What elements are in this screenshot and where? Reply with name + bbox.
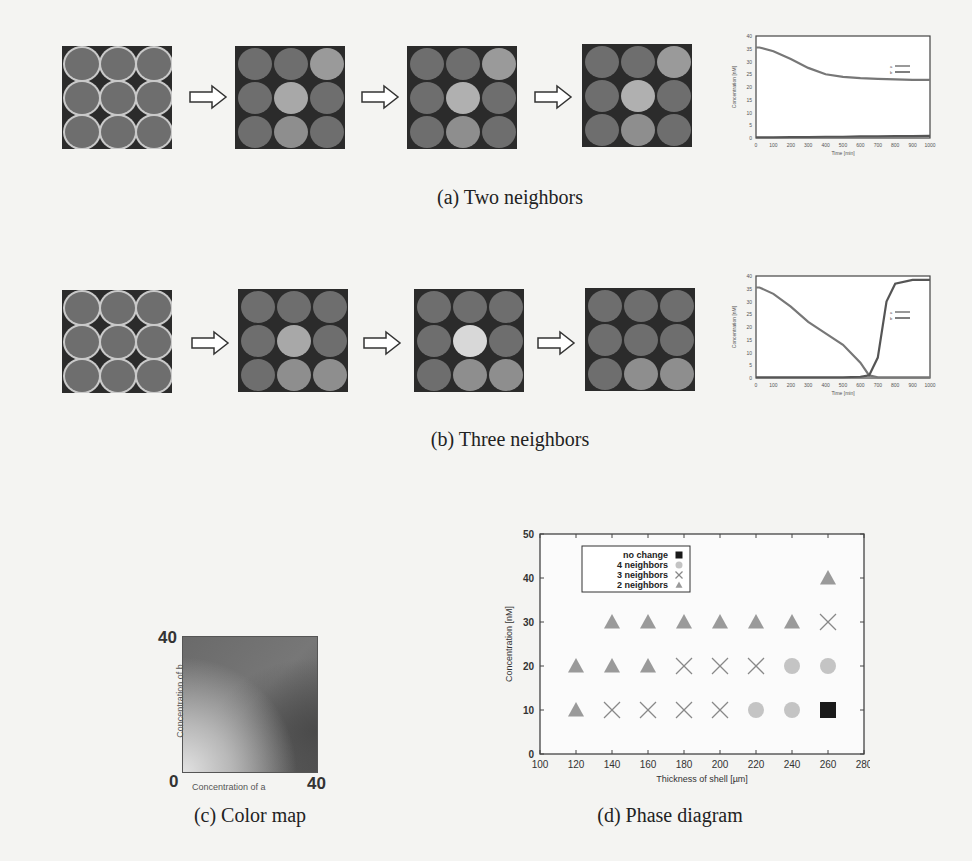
cell bbox=[277, 359, 311, 391]
cell bbox=[660, 324, 694, 356]
cell bbox=[624, 358, 658, 390]
cell bbox=[453, 359, 487, 391]
series-line-b bbox=[756, 136, 930, 137]
cell bbox=[417, 325, 451, 357]
y-tick: 30 bbox=[746, 299, 752, 305]
cell bbox=[588, 290, 622, 322]
y-tick: 50 bbox=[523, 529, 535, 540]
x-tick: 1000 bbox=[924, 142, 935, 148]
cell bbox=[65, 292, 99, 324]
cell bbox=[585, 80, 619, 112]
arrow-right-icon bbox=[536, 330, 576, 356]
cell bbox=[137, 360, 171, 392]
y-tick: 20 bbox=[523, 661, 535, 672]
y-tick: 0 bbox=[749, 375, 752, 381]
arrow-right-icon bbox=[190, 330, 230, 356]
cell bbox=[489, 325, 523, 357]
legend-label: 3 neighbors bbox=[617, 570, 668, 580]
x-tick: 1000 bbox=[924, 382, 935, 388]
caption-c: (c) Color map bbox=[140, 804, 360, 827]
cell bbox=[238, 48, 272, 80]
cell bbox=[410, 82, 444, 114]
cell bbox=[417, 359, 451, 391]
cell bbox=[489, 359, 523, 391]
y-tick: 40 bbox=[746, 33, 752, 39]
cell bbox=[453, 325, 487, 357]
y-tick: 35 bbox=[746, 286, 752, 292]
x-tick: 400 bbox=[821, 382, 830, 388]
cell-grid-b-1 bbox=[238, 289, 348, 392]
cell bbox=[274, 116, 308, 148]
arrow-right-icon bbox=[360, 84, 400, 110]
cell bbox=[446, 116, 480, 148]
cell bbox=[137, 326, 171, 358]
y-tick: 10 bbox=[746, 350, 752, 356]
y-tick: 40 bbox=[523, 573, 535, 584]
x-tick: 100 bbox=[769, 142, 778, 148]
y-axis-label: Concentration [nM] bbox=[731, 65, 737, 108]
arrow-right-icon bbox=[188, 84, 228, 110]
plot-frame bbox=[756, 276, 930, 378]
cell bbox=[446, 48, 480, 80]
cell bbox=[101, 48, 135, 80]
cell bbox=[101, 82, 135, 114]
legend: no change4 neighbors3 neighbors2 neighbo… bbox=[582, 546, 690, 592]
x-tick: 180 bbox=[676, 759, 693, 770]
cell-grid-a-0 bbox=[62, 46, 172, 149]
marker-square bbox=[676, 552, 683, 559]
x-tick: 0 bbox=[755, 142, 758, 148]
color-map-x-label: Concentration of a bbox=[192, 782, 266, 792]
cell bbox=[277, 291, 311, 323]
y-axis-label: Concentration [nM] bbox=[731, 305, 737, 348]
color-map-y-label: Concentration of b bbox=[175, 631, 185, 771]
y-tick: 25 bbox=[746, 71, 752, 77]
cell bbox=[65, 48, 99, 80]
cell bbox=[241, 325, 275, 357]
cell bbox=[238, 116, 272, 148]
y-tick: 10 bbox=[523, 705, 535, 716]
cell bbox=[621, 46, 655, 78]
figure: 0100200300400500600700800900100005101520… bbox=[0, 0, 972, 861]
cell bbox=[101, 326, 135, 358]
x-tick: 800 bbox=[891, 382, 900, 388]
x-tick: 160 bbox=[640, 759, 657, 770]
cell bbox=[313, 291, 347, 323]
cell bbox=[453, 291, 487, 323]
cell bbox=[277, 325, 311, 357]
cell bbox=[417, 291, 451, 323]
cell bbox=[313, 325, 347, 357]
y-tick: 10 bbox=[746, 110, 752, 116]
cell bbox=[489, 291, 523, 323]
y-tick: 25 bbox=[746, 311, 752, 317]
marker-circle bbox=[676, 562, 683, 569]
cell bbox=[588, 358, 622, 390]
cell bbox=[137, 48, 171, 80]
marker-square bbox=[820, 702, 836, 718]
cell bbox=[585, 114, 619, 146]
cell bbox=[65, 360, 99, 392]
arrow-right-icon bbox=[362, 330, 402, 356]
x-tick: 500 bbox=[839, 142, 848, 148]
cell bbox=[660, 290, 694, 322]
cell-grid-b-2 bbox=[414, 289, 524, 392]
cell bbox=[137, 82, 171, 114]
x-tick: 100 bbox=[769, 382, 778, 388]
legend-label: no change bbox=[623, 550, 668, 560]
x-tick: 700 bbox=[874, 142, 883, 148]
time-series-inset-a: 0100200300400500600700800900100005101520… bbox=[728, 30, 950, 160]
cell bbox=[621, 80, 655, 112]
cell bbox=[310, 116, 344, 148]
cell-grid-a-1 bbox=[235, 46, 345, 149]
cell bbox=[65, 82, 99, 114]
cell-grid-b-0 bbox=[62, 290, 172, 393]
color-map-x-min: 0 bbox=[169, 772, 178, 792]
cell-grid-a-2 bbox=[407, 46, 517, 149]
x-tick: 260 bbox=[820, 759, 837, 770]
cell bbox=[482, 116, 516, 148]
marker-circle bbox=[748, 702, 764, 718]
x-tick: 600 bbox=[856, 142, 865, 148]
x-tick: 400 bbox=[821, 142, 830, 148]
y-tick: 5 bbox=[749, 122, 752, 128]
cell bbox=[101, 360, 135, 392]
cell bbox=[657, 46, 691, 78]
